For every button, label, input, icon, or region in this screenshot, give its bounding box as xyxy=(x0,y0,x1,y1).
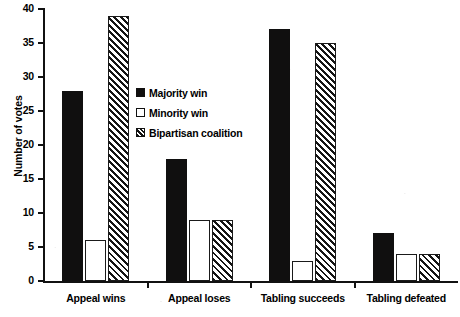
open-square-icon xyxy=(136,108,145,117)
chart-legend: Majority winMinority winBipartisan coali… xyxy=(136,84,242,144)
bar xyxy=(419,254,440,281)
hatched-square-icon xyxy=(136,128,145,137)
bar xyxy=(189,220,210,281)
legend-item-label: Majority win xyxy=(149,87,207,99)
bar xyxy=(108,16,129,281)
bar xyxy=(85,240,106,281)
bar-chart: Number of votes 0510152025303540 Appeal … xyxy=(0,0,460,317)
bar xyxy=(212,220,233,281)
legend-item: Minority win xyxy=(136,104,242,121)
legend-item: Bipartisan coalition xyxy=(136,124,242,141)
y-axis-tick-label: 0 xyxy=(0,275,34,285)
solid-square-icon xyxy=(136,88,145,97)
y-axis-title: Number of votes xyxy=(12,66,24,206)
bar xyxy=(292,261,313,281)
legend-item-label: Bipartisan coalition xyxy=(149,127,242,139)
y-axis-tick-label: 25 xyxy=(0,105,34,115)
x-axis-category-label: Tabling succeeds xyxy=(251,292,355,304)
bar xyxy=(166,159,187,281)
legend-item: Majority win xyxy=(136,84,242,101)
y-axis-tick-label: 20 xyxy=(0,139,34,149)
x-axis-tick-mark xyxy=(354,283,356,288)
y-axis-tick-label: 15 xyxy=(0,173,34,183)
legend-item-label: Minority win xyxy=(149,107,208,119)
x-axis-category-label: Appeal wins xyxy=(44,292,148,304)
bar xyxy=(315,43,336,281)
y-axis-tick-label: 30 xyxy=(0,71,34,81)
x-axis-category-label: Appeal loses xyxy=(148,292,252,304)
bar xyxy=(373,233,394,281)
x-axis-tick-mark xyxy=(250,283,252,288)
bar xyxy=(62,91,83,281)
y-axis-tick-label: 5 xyxy=(0,241,34,251)
plot-area xyxy=(44,9,458,281)
bar xyxy=(396,254,417,281)
y-axis-tick-label: 40 xyxy=(0,3,34,13)
x-axis-category-label: Tabling defeated xyxy=(355,292,459,304)
x-axis-tick-mark xyxy=(147,283,149,288)
y-axis-tick-label: 10 xyxy=(0,207,34,217)
y-axis-tick-label: 35 xyxy=(0,37,34,47)
bar xyxy=(269,29,290,281)
